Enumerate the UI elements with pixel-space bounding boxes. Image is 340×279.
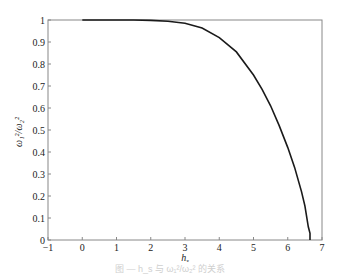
y-tick-label: 0.4 (33, 147, 46, 158)
y-tick-label: 0 (40, 235, 45, 246)
series-line (82, 20, 310, 240)
figure-caption: 图 — h_s 与 ω₁²/ω₂² 的关系 (0, 262, 340, 275)
x-tick-label: 1 (114, 242, 119, 253)
y-tick-label: 0.1 (33, 213, 46, 224)
y-tick-label: 0.6 (33, 103, 46, 114)
x-tick-label: 7 (320, 242, 325, 253)
y-tick-label: 0.3 (33, 169, 46, 180)
y-tick-label: 0.2 (33, 191, 46, 202)
x-tick-label: 2 (148, 242, 153, 253)
y-tick-label: 0.8 (33, 59, 46, 70)
x-tick-label: 4 (217, 242, 222, 253)
x-tick-label: 0 (80, 242, 85, 253)
y-axis-label: ω₁²/ω₂² (13, 116, 24, 147)
data-series (82, 20, 310, 240)
y-tick-label: 0.7 (33, 81, 46, 92)
y-tick-label: 0.5 (33, 125, 46, 136)
x-axis-label: hs (181, 252, 189, 262)
chart: −101234567 00.10.20.30.40.50.60.70.80.91… (0, 0, 340, 262)
x-tick-label: 6 (285, 242, 290, 253)
y-tick-label: 0.9 (33, 37, 46, 48)
x-tick-label: 5 (251, 242, 256, 253)
y-tick-label: 1 (40, 15, 45, 26)
y-axis-label-text: ω₁²/ω₂² (13, 116, 24, 147)
x-axis-ticks: −101234567 (43, 237, 325, 253)
